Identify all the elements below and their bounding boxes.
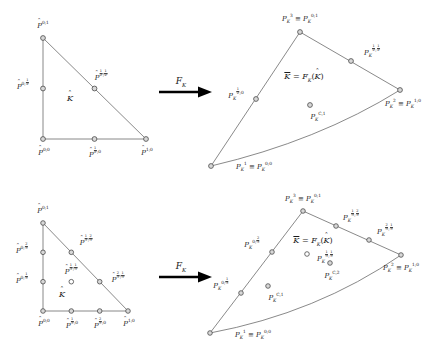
- node-curve-C1: [266, 284, 271, 289]
- node-vertex-bottom-left: [41, 137, 46, 142]
- label-node-P-hat-two-thirds-one-third: P23;13: [112, 272, 125, 284]
- label-node-P-hat-half-0: P12;0: [89, 147, 101, 159]
- panel-cubic-mapped: PK3 ≡ PK0;1 PK13;23 PK23;13 PK2 ≡ PK1;0 …: [185, 185, 441, 362]
- node-vertex-bottom-right: [144, 137, 149, 142]
- label-element-K-bar-mapped: K = FK(K): [284, 73, 323, 81]
- node-top-right-lower: [367, 238, 372, 243]
- label-element-K-bar-mapped: K = FK(K): [293, 237, 332, 245]
- label-node-P-hat-0-1: P0;1: [37, 23, 49, 30]
- label-node-PK2: PK2 ≡ PK1;0: [385, 101, 421, 108]
- label-node-P-hat-1-0: P1;0: [141, 150, 153, 157]
- node-hyp-lower: [97, 279, 102, 284]
- label-element-K-hat: K: [59, 291, 65, 299]
- node-P2: [398, 88, 403, 93]
- label-node-P-hat-0-half: P0;12: [17, 79, 29, 91]
- node-left-one-third: [41, 279, 46, 284]
- label-node-PK-C1: PKC,1: [310, 114, 325, 121]
- node-hyp-upper: [69, 250, 74, 255]
- label-node-PK-two-thirds-one-third: PK23;13: [377, 224, 393, 236]
- label-node-PK-C1: PKC,1: [268, 295, 283, 302]
- label-node-PK1: PK1 ≡ PK0;0: [235, 332, 271, 339]
- node-vertex-top: [41, 36, 46, 41]
- edge-left: [210, 211, 303, 333]
- label-node-P-hat-one-third-one-third: P13;13: [65, 264, 78, 276]
- panel-quadratic-mapped: PK3 ≡ PK0;1 PK12;12 PK2 ≡ PK1;0 PKC,1 PK…: [190, 0, 441, 181]
- node-P1: [208, 331, 213, 336]
- node-left-one-third: [239, 291, 244, 296]
- label-node-PK-0-two-thirds: PK0;23: [244, 237, 259, 249]
- label-node-P-hat-0-one-third: P0;13: [16, 273, 28, 285]
- node-mid-hypotenuse: [92, 86, 97, 91]
- label-node-P-hat-one-third-two-thirds: P13;23: [80, 235, 93, 247]
- node-left-two-thirds: [41, 250, 46, 255]
- node-vertex-top: [41, 221, 46, 226]
- node-bottom-one-third: [69, 309, 74, 314]
- node-vertex-bottom-right: [126, 309, 131, 314]
- label-element-K-hat: K: [67, 95, 73, 103]
- label-node-P-hat-half-half: P12;12: [95, 70, 108, 82]
- node-mid-left: [41, 86, 46, 91]
- label-node-P-hat-two-thirds-0: P23;0: [94, 318, 106, 330]
- label-node-P-hat-0-0: P0;0: [38, 150, 50, 157]
- label-node-PK-half-0: PK12;0: [228, 88, 243, 100]
- node-P3: [301, 209, 306, 214]
- label-node-PK1: PK1 ≡ PK0;0: [236, 164, 272, 171]
- node-left-two-thirds: [270, 250, 275, 255]
- node-interior: [305, 252, 310, 257]
- label-node-PK-half-half: PK12;12: [364, 45, 380, 57]
- label-node-P-hat-1-0: P1;0: [123, 321, 135, 328]
- node-P3: [298, 30, 303, 35]
- node-vertex-bottom-left: [41, 309, 46, 314]
- label-node-P-hat-one-third-0: P13;0: [66, 318, 78, 330]
- label-node-PK-0-one-third: PK0;13: [213, 278, 228, 290]
- node-mid-left: [254, 97, 259, 102]
- label-node-PK3: PK3 ≡ PK0;1: [282, 16, 318, 23]
- label-node-PK2: PK2 ≡ PK1;0: [383, 265, 419, 272]
- label-node-PK-C2: PKC,2: [324, 273, 339, 280]
- edge-curved-bottom: [211, 90, 400, 166]
- node-top-right-upper: [334, 224, 339, 229]
- label-node-PK-one-third-one-third: PK13;13: [317, 251, 333, 263]
- label-node-P-hat-0-0: P0;0: [38, 321, 50, 328]
- node-mid-top-right: [349, 59, 354, 64]
- node-bottom-two-thirds: [97, 309, 102, 314]
- label-node-P-hat-0-two-thirds: P0;23: [16, 243, 28, 255]
- node-curve-C1: [308, 103, 313, 108]
- node-mid-bottom: [92, 137, 97, 142]
- label-node-PK3: PK3 ≡ PK0;1: [285, 196, 321, 203]
- node-interior: [69, 279, 74, 284]
- node-P2: [399, 253, 404, 258]
- node-P1: [209, 164, 214, 169]
- cubic-mapped-drawing: [185, 185, 441, 362]
- label-node-P-hat-0-1: P0;1: [37, 208, 49, 215]
- label-node-PK-one-third-two-thirds: PK13;23: [343, 210, 359, 222]
